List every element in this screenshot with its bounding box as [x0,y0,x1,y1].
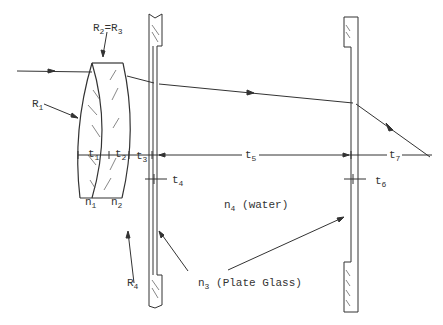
label-r4: R4 [127,278,138,291]
label-n3-plate-glass: n3 (Plate Glass) [198,278,302,291]
refracted-ray [127,76,430,157]
label-t2: t2 [115,149,126,162]
optical-diagram: R2=R3 R1 R4 t1 t2 t3 t4 t5 t6 t7 n1 n2 n… [0,0,443,325]
label-t7: t7 [387,150,402,163]
label-n4-water: n4 (water) [224,200,288,213]
plate-glass-1 [149,14,162,308]
label-t5: t5 [242,150,259,163]
label-r1: R1 [32,99,43,112]
label-n2: n2 [111,197,122,210]
label-t3: t3 [136,151,147,164]
label-t1: t1 [88,149,99,162]
label-t4: t4 [172,175,183,188]
label-t6: t6 [375,176,386,189]
incoming-ray [17,69,92,73]
plate-glass-2 [344,17,358,312]
doublet-lens [78,63,131,198]
label-r2-r3: R2=R3 [93,23,122,36]
label-n1: n1 [85,197,96,210]
